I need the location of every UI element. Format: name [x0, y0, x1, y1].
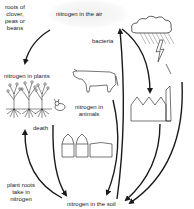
rabbit-icon [54, 99, 65, 111]
bacteria-label: bacteria [92, 38, 113, 45]
soil-label: nitrogen in the soil [67, 201, 116, 208]
lightning-icon [156, 40, 171, 74]
roots-label-line1: roots of [5, 4, 25, 11]
plants-label: nitrogen in plants [4, 73, 50, 80]
rain-icon [140, 33, 174, 44]
animals-label: nitrogen in animals [75, 104, 103, 118]
uptake-label-line2: take in [7, 189, 35, 196]
arrow-animals-to-soil [107, 100, 118, 194]
uptake-label: plant roots take in nitrogen [7, 182, 35, 203]
arrow-roots-to-plants [25, 30, 50, 63]
uptake-label-line3: nitrogen [7, 196, 35, 203]
cow-icon [73, 69, 118, 92]
plants-icon [6, 81, 52, 118]
death-label: death [33, 125, 48, 132]
air-label: nitrogen in the air [56, 11, 102, 18]
animals-label-line2: animals [75, 111, 103, 118]
roots-label: roots of clover, peas or beans [5, 4, 25, 32]
cycle-arrows [25, 29, 182, 203]
roots-label-line3: peas or [5, 18, 25, 25]
arrow-plants-death-to-soil [53, 125, 66, 195]
animals-label-line1: nitrogen in [75, 104, 103, 111]
roots-label-line2: clover, [5, 11, 25, 18]
uptake-label-line1: plant roots [7, 182, 35, 189]
arrow-factory-to-soil [126, 124, 160, 200]
roots-label-line4: beans [5, 25, 25, 32]
fertilizer-store-icon [62, 134, 112, 157]
arrow-air-to-factory [122, 29, 150, 92]
cloud-icon [132, 16, 172, 33]
arrow-soil-to-air-bacteria [117, 30, 123, 199]
arrow-lightning-to-soil [130, 82, 182, 203]
factory-icon [131, 86, 171, 121]
